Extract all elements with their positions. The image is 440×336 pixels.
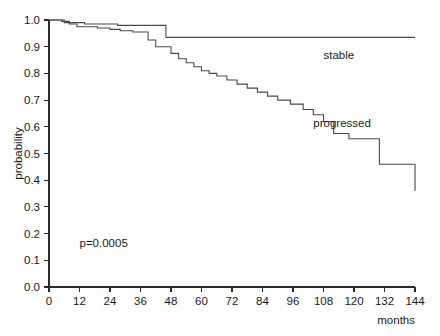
series-label-progressed: progressed [313,117,371,129]
y-tick-label: 0.2 [24,228,40,240]
curve-stable [49,20,415,37]
chart-curves [49,20,415,191]
y-tick-label: 0.5 [24,148,40,160]
chart-page: 0.00.10.20.30.40.50.60.70.80.91.00122436… [0,0,440,336]
chart-labels: stableprogressedp=0.0005monthsprobabilit… [12,49,415,326]
x-tick-label: 60 [195,295,208,307]
y-tick-label: 1.0 [24,14,40,26]
y-axis-title: probability [12,127,24,180]
x-tick-label: 36 [134,295,147,307]
y-tick-label: 0.1 [24,254,40,266]
x-tick-label: 24 [104,295,117,307]
curve-progressed [49,20,415,191]
y-tick-label: 0.6 [24,121,40,133]
chart-ticks: 0.00.10.20.30.40.50.60.70.80.91.00122436… [24,14,425,307]
x-tick-label: 144 [405,295,425,307]
y-tick-label: 0.3 [24,201,40,213]
x-tick-label: 12 [73,295,86,307]
x-tick-label: 84 [256,295,269,307]
y-tick-label: 0.4 [24,174,41,186]
x-tick-label: 48 [165,295,178,307]
x-tick-label: 96 [287,295,300,307]
survival-curve-chart: 0.00.10.20.30.40.50.60.70.80.91.00122436… [0,0,440,336]
y-tick-label: 0.9 [24,41,40,53]
x-tick-label: 120 [344,295,363,307]
annotation-p-value: p=0.0005 [80,237,128,249]
x-tick-label: 72 [226,295,239,307]
x-tick-label: 108 [314,295,333,307]
y-tick-label: 0.7 [24,94,40,106]
y-tick-label: 0.0 [24,281,40,293]
x-tick-label: 132 [375,295,394,307]
x-tick-label: 0 [46,295,52,307]
series-label-stable: stable [324,49,355,61]
x-axis-title: months [377,314,415,326]
y-tick-label: 0.8 [24,67,40,79]
